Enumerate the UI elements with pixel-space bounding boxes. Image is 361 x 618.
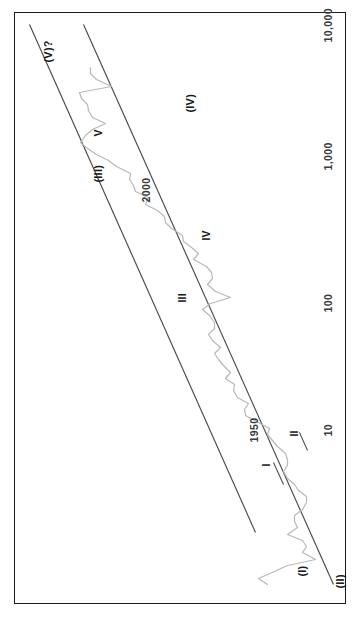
annotation-roman-IV: IV	[200, 230, 212, 240]
y-tick-10000: 10,000	[322, 7, 334, 42]
peak-leader-ticks	[274, 432, 308, 484]
annotation-paren-IV: (IV)	[184, 93, 196, 112]
chart-canvas	[16, 14, 345, 602]
x-tick-2000: 2000	[140, 177, 152, 202]
figure-page: 10,000 1,000 100 10 1950 2000 (I) (II) (…	[0, 0, 361, 618]
trend-line-upper	[30, 24, 256, 532]
rotated-plot-container: 10,000 1,000 100 10 1950 2000 (I) (II) (…	[16, 14, 345, 602]
trend-channel	[30, 24, 334, 584]
annotation-paren-V: (V)?	[42, 40, 54, 62]
figure-frame: 10,000 1,000 100 10 1950 2000 (I) (II) (…	[14, 12, 346, 604]
annotation-paren-II: (II)	[334, 574, 346, 588]
annotation-roman-II: II	[288, 430, 300, 436]
leader-tick-I	[274, 462, 284, 484]
y-tick-1000: 1,000	[322, 142, 334, 170]
y-tick-100: 100	[322, 293, 334, 312]
leader-tick-II	[300, 432, 308, 450]
annotation-roman-III: III	[176, 293, 188, 302]
annotation-paren-III: (III)	[92, 165, 104, 183]
y-tick-10: 10	[322, 424, 334, 436]
trend-line-lower	[84, 24, 334, 584]
annotation-roman-I: I	[260, 463, 272, 466]
series-index-line	[80, 67, 316, 584]
annotation-paren-I: (I)	[296, 565, 308, 576]
x-tick-1950: 1950	[248, 417, 260, 442]
annotation-roman-V: V	[92, 129, 104, 136]
